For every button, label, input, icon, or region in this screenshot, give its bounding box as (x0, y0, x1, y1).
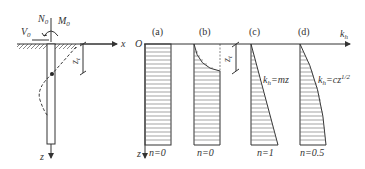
panel-b-depth-label: zt (221, 55, 234, 63)
panel-c: (c) kh=mz n=1 (249, 26, 289, 158)
pile-shaft (47, 44, 55, 144)
axial-load-label: N0 (37, 13, 49, 26)
origin-label: O (135, 38, 142, 49)
z-axis-label: z (39, 151, 44, 162)
panel-c-n-label: n=1 (257, 147, 274, 158)
panel-c-tag: (c) (249, 26, 260, 38)
profile-z-label: z (136, 148, 141, 159)
x-axis-label: x (120, 38, 126, 49)
kh-axis-label: kh (340, 28, 348, 41)
profile-axes: O kh z (135, 28, 350, 159)
panel-d: (d) kh=cz1/2 n=0.5 (298, 26, 350, 158)
panel-a: (a) n=0 (145, 26, 171, 158)
panel-a-n-label: n=0 (149, 147, 166, 158)
panel-b-tag: (b) (199, 26, 211, 38)
panel-a-tag: (a) (152, 26, 163, 38)
depth-label: zt (69, 57, 82, 65)
moment-label: M0 (57, 15, 70, 28)
panel-b: (b) zt n=0 (194, 26, 239, 158)
panel-c-formula: kh=mz (263, 74, 289, 87)
panel-d-n-label: n=0.5 (300, 147, 324, 158)
deflection-curve (39, 47, 76, 116)
panel-b-n-label: n=0 (197, 147, 214, 158)
panel-d-tag: (d) (298, 26, 310, 38)
panel-d-formula: kh=cz1/2 (318, 73, 350, 87)
pile-sketch: x z N0 M0 V0 zt (17, 13, 126, 162)
pile-lateral-subgrade-modulus-diagram: x z N0 M0 V0 zt O kh z (a) (0, 0, 365, 169)
shear-load-label: V0 (21, 26, 31, 39)
